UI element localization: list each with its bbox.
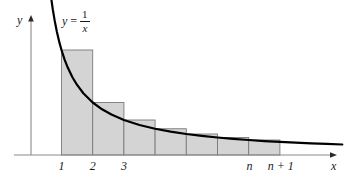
curve-equation-fraction: 1 x [80, 9, 90, 34]
function-plot [0, 0, 358, 185]
fraction-denominator: x [80, 22, 89, 34]
x-tick-label: 3 [99, 160, 149, 172]
curve-equation-lhs: y [62, 14, 67, 29]
integral-test-figure: y = 1 x y x 123nn + 1 [0, 0, 358, 185]
y-axis-label: y [17, 14, 22, 26]
fraction-numerator: 1 [80, 9, 90, 21]
x-axis-label: x [331, 160, 336, 172]
curve-equation-equals: = [70, 14, 77, 29]
curve-equation-label: y = 1 x [62, 9, 90, 34]
x-axis-arrowhead [330, 152, 337, 158]
x-tick-label: n + 1 [256, 160, 306, 172]
y-axis-arrowhead [28, 15, 34, 22]
riemann-rectangle [93, 103, 124, 156]
